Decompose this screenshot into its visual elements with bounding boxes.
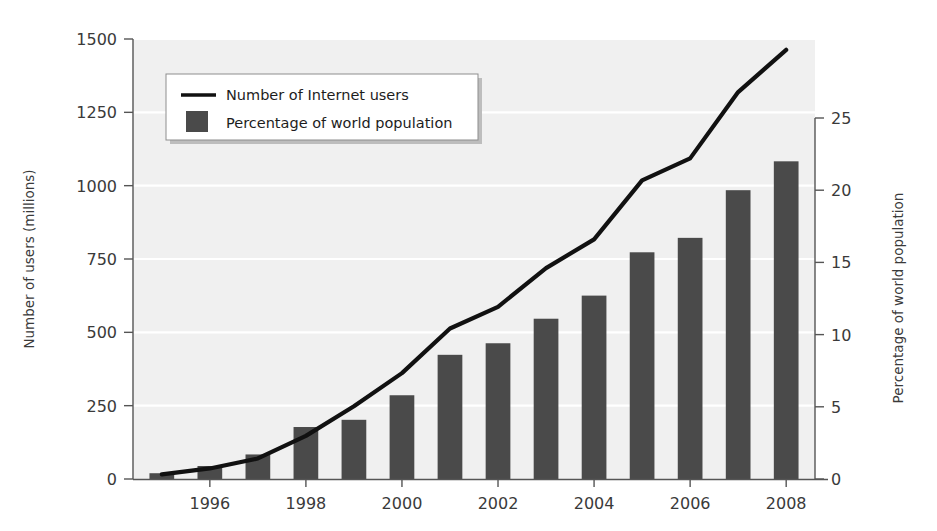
y2-axis-title: Percentage of world population [890,193,906,404]
chart-figure: 0250500750100012501500 0510152025 199619… [0,0,937,531]
y-tick-label: 0 [107,470,117,489]
y2-tick-label: 10 [831,326,851,345]
legend-square-marker [186,111,208,132]
y-tick-label: 1500 [76,30,117,49]
y2-tick-label: 0 [831,470,841,489]
chart-legend: Number of Internet users Percentage of w… [166,74,482,144]
x-tick-label: 1996 [189,494,230,513]
x-tick-label: 2002 [478,494,519,513]
x-tick-label: 1998 [286,494,327,513]
x-tick-label: 2006 [670,494,711,513]
internet-users-chart: 0250500750100012501500 0510152025 199619… [0,0,937,531]
y-tick-label: 250 [86,397,117,416]
legend-label-line: Number of Internet users [226,87,409,103]
bar [726,190,751,479]
legend-label-bar: Percentage of world population [226,115,452,131]
y2-tick-label: 25 [831,109,851,128]
y2-tick-label: 15 [831,253,851,272]
y-tick-label: 1250 [76,103,117,122]
bar [630,252,655,479]
x-tick-label: 2000 [382,494,423,513]
bar [774,161,799,479]
bar [678,238,703,479]
bar [390,395,415,479]
bar [582,296,607,479]
y-axis-title: Number of users (millions) [21,169,37,348]
bar [534,319,559,479]
y-tick-label: 500 [86,323,117,342]
x-tick-label: 2008 [766,494,807,513]
y-tick-label: 1000 [76,177,117,196]
y2-tick-label: 20 [831,181,851,200]
y-tick-label: 750 [86,250,117,269]
bar [342,420,367,479]
y2-tick-label: 5 [831,398,841,417]
bar [486,343,511,479]
bar [438,355,463,479]
x-tick-label: 2004 [574,494,615,513]
